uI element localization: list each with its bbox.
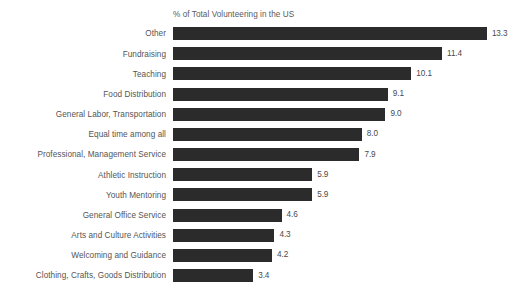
bar-value-label: 8.0 — [367, 129, 378, 139]
category-label: Teaching — [133, 69, 166, 81]
bar — [173, 168, 312, 181]
category-label: Equal time among all — [89, 129, 166, 141]
bar-track: 5.9 — [173, 168, 523, 181]
bar-track: 4.2 — [173, 249, 523, 262]
bar — [173, 67, 411, 80]
bar-value-label: 5.9 — [317, 170, 328, 180]
bar-row: Professional, Management Service7.9 — [0, 146, 523, 166]
bar-value-label: 9.1 — [393, 89, 404, 99]
bar — [173, 269, 253, 282]
bar-row: Youth Mentoring5.9 — [0, 186, 523, 206]
bar-track: 4.3 — [173, 229, 523, 242]
bar-row: Fundraising11.4 — [0, 45, 523, 65]
bar — [173, 229, 274, 242]
bar — [173, 148, 359, 161]
category-label: Fundraising — [123, 49, 166, 61]
category-label: Clothing, Crafts, Goods Distribution — [36, 270, 166, 282]
bar-track: 8.0 — [173, 128, 523, 141]
bar-row: Athletic Instruction5.9 — [0, 166, 523, 186]
category-label: General Labor, Transportation — [56, 109, 166, 121]
bar — [173, 249, 272, 262]
bar — [173, 188, 312, 201]
category-label: Other — [145, 28, 166, 40]
bar-track: 10.1 — [173, 67, 523, 80]
bar-row: Equal time among all8.0 — [0, 126, 523, 146]
bar-track: 9.1 — [173, 88, 523, 101]
bar-value-label: 13.3 — [492, 29, 508, 39]
bar-track: 3.4 — [173, 269, 523, 282]
bar — [173, 108, 385, 121]
category-label: Welcoming and Guidance — [71, 250, 166, 262]
bar-row: General Labor, Transportation9.0 — [0, 106, 523, 126]
bar-value-label: 4.3 — [279, 230, 290, 240]
bar-value-label: 11.4 — [447, 49, 462, 59]
bar-track: 13.3 — [173, 27, 523, 40]
bar-value-label: 3.4 — [258, 271, 269, 281]
chart-title: % of Total Volunteering in the US — [173, 10, 294, 20]
bar-value-label: 4.2 — [277, 250, 288, 260]
bar-track: 4.6 — [173, 209, 523, 222]
bar-row: Welcoming and Guidance4.2 — [0, 247, 523, 267]
category-label: Arts and Culture Activities — [71, 230, 166, 242]
bar — [173, 128, 362, 141]
bar-track: 11.4 — [173, 47, 523, 60]
bar — [173, 88, 388, 101]
bar-value-label: 9.0 — [390, 109, 401, 119]
bar-value-label: 5.9 — [317, 190, 328, 200]
bar-row: General Office Service4.6 — [0, 207, 523, 227]
bar-value-label: 7.9 — [364, 150, 375, 160]
bar-track: 7.9 — [173, 148, 523, 161]
bar-row: Arts and Culture Activities4.3 — [0, 227, 523, 247]
category-label: Food Distribution — [103, 89, 166, 101]
bar-row: Teaching10.1 — [0, 65, 523, 85]
bar-row: Other13.3 — [0, 25, 523, 45]
bar — [173, 209, 282, 222]
bar-row: Food Distribution9.1 — [0, 86, 523, 106]
bar-chart: % of Total Volunteering in the US Other1… — [0, 0, 523, 302]
category-label: General Office Service — [83, 210, 166, 222]
category-label: Professional, Management Service — [37, 149, 166, 161]
category-label: Youth Mentoring — [106, 190, 166, 202]
bar-rows-container: Other13.3Fundraising11.4Teaching10.1Food… — [0, 25, 523, 287]
category-label: Athletic Instruction — [98, 170, 166, 182]
bar — [173, 47, 442, 60]
bar-row: Clothing, Crafts, Goods Distribution3.4 — [0, 267, 523, 287]
bar-track: 9.0 — [173, 108, 523, 121]
bar-value-label: 4.6 — [287, 210, 298, 220]
bar — [173, 27, 487, 40]
bar-track: 5.9 — [173, 188, 523, 201]
bar-value-label: 10.1 — [416, 69, 432, 79]
